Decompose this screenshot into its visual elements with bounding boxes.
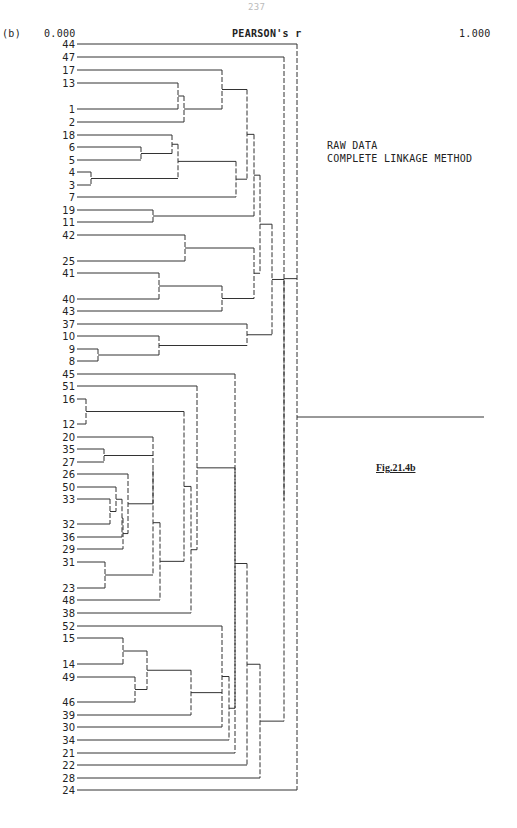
leaf-label: 22 xyxy=(62,760,75,771)
leaf-label: 13 xyxy=(62,78,75,89)
leaf-label: 41 xyxy=(62,268,75,279)
leaf-label: 46 xyxy=(62,697,75,708)
leaf-label: 4 xyxy=(69,167,75,178)
leaf-label: 19 xyxy=(62,205,75,216)
leaf-label: 15 xyxy=(62,633,75,644)
leaf-label: 45 xyxy=(62,369,75,380)
leaf-label: 39 xyxy=(62,710,75,721)
leaf-label: 40 xyxy=(62,294,75,305)
leaf-label: 27 xyxy=(62,457,75,468)
leaf-label: 36 xyxy=(62,532,75,543)
leaf-label: 2 xyxy=(69,117,75,128)
leaf-label: 7 xyxy=(69,192,75,203)
leaf-label: 9 xyxy=(69,344,75,355)
leaf-label: 14 xyxy=(62,659,75,670)
leaf-label: 43 xyxy=(62,306,75,317)
leaf-label: 28 xyxy=(62,773,75,784)
leaf-label: 47 xyxy=(62,52,75,63)
leaf-label: 3 xyxy=(69,180,75,191)
leaf-label: 24 xyxy=(62,785,75,796)
leaf-label: 23 xyxy=(62,583,75,594)
leaf-label: 8 xyxy=(69,356,75,367)
leaf-label: 26 xyxy=(62,469,75,480)
leaf-label: 29 xyxy=(62,544,75,555)
leaf-label: 49 xyxy=(62,672,75,683)
leaf-label: 44 xyxy=(62,39,75,50)
leaf-label: 5 xyxy=(69,155,75,166)
leaf-label: 31 xyxy=(62,557,75,568)
leaf-label: 42 xyxy=(62,230,75,241)
leaf-label: 51 xyxy=(62,381,75,392)
leaf-label: 37 xyxy=(62,319,75,330)
leaf-label: 35 xyxy=(62,444,75,455)
leaf-label: 12 xyxy=(62,419,75,430)
leaf-label: 38 xyxy=(62,608,75,619)
leaf-label: 18 xyxy=(62,130,75,141)
leaf-label: 33 xyxy=(62,494,75,505)
leaf-label: 30 xyxy=(62,722,75,733)
leaf-label: 20 xyxy=(62,432,75,443)
leaf-label: 32 xyxy=(62,519,75,530)
leaf-label: 6 xyxy=(69,142,75,153)
leaf-label: 11 xyxy=(62,217,75,228)
leaf-label: 48 xyxy=(62,595,75,606)
leaf-label: 34 xyxy=(62,735,75,746)
leaf-label: 17 xyxy=(62,65,75,76)
leaf-label: 50 xyxy=(62,482,75,493)
leaf-label: 21 xyxy=(62,748,75,759)
leaf-label: 1 xyxy=(69,104,75,115)
leaf-label: 25 xyxy=(62,256,75,267)
leaf-label: 10 xyxy=(62,331,75,342)
leaf-label: 52 xyxy=(62,621,75,632)
leaf-label: 16 xyxy=(62,394,75,405)
dendrogram-plot: 4447171312186543719114225414043371098455… xyxy=(0,0,517,828)
